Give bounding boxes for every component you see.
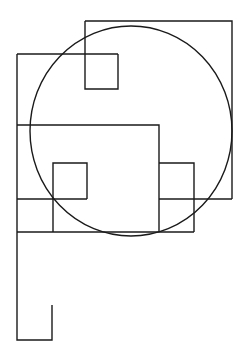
geometric-line-figure — [0, 0, 248, 360]
